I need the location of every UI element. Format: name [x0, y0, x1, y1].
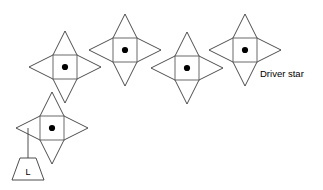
- diagram-canvas: L Driver star: [0, 0, 323, 190]
- star-center-dot: [49, 125, 55, 131]
- driver-star-label: Driver star: [260, 68, 304, 79]
- stars-group: [16, 14, 281, 164]
- star-chain-diagram: L Driver star: [0, 0, 323, 190]
- star-shape: [89, 14, 161, 86]
- star-shape: [151, 32, 223, 104]
- star-center-dot: [242, 47, 248, 53]
- load-marker-group: L: [12, 128, 44, 180]
- star-center-dot: [122, 47, 128, 53]
- star-shape: [29, 31, 101, 103]
- star-shape: [16, 92, 88, 164]
- star-center-dot: [62, 64, 68, 70]
- star-center-dot: [184, 65, 190, 71]
- load-label: L: [25, 167, 30, 177]
